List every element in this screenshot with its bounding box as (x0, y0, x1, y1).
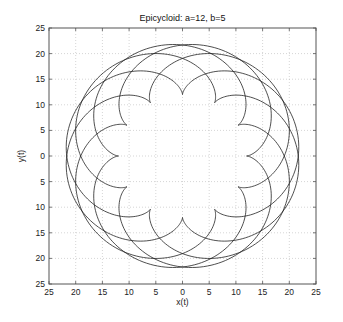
curve-epicycloid (66, 45, 299, 268)
axis-ticks (49, 28, 316, 284)
y-tick-label: 5 (40, 177, 45, 187)
y-tick-label: 20 (36, 49, 46, 59)
x-tick-label: 25 (44, 287, 54, 297)
y-tick-label: 20 (36, 253, 46, 263)
x-tick-label: 15 (258, 287, 268, 297)
grid-lines (49, 28, 316, 284)
y-tick-label: 10 (36, 202, 46, 212)
x-tick-label: 5 (207, 287, 212, 297)
y-tick-label: 25 (36, 279, 46, 289)
x-tick-label: 10 (231, 287, 241, 297)
chart-figure: Epicycloid: a=12, b=5 252015105051015202… (0, 0, 343, 322)
epicycloid-curve (66, 45, 299, 268)
y-tick-labels: 2520151050510152025 (36, 23, 46, 289)
x-axis-label: x(t) (176, 297, 188, 307)
y-axis-label: y(t) (16, 150, 26, 162)
x-tick-label: 5 (153, 287, 158, 297)
y-tick-label: 0 (40, 151, 45, 161)
y-tick-label: 10 (36, 100, 46, 110)
y-tick-label: 5 (40, 125, 45, 135)
x-tick-label: 25 (311, 287, 321, 297)
x-tick-label: 20 (285, 287, 295, 297)
x-tick-label: 15 (98, 287, 108, 297)
y-tick-label: 25 (36, 23, 46, 33)
chart-title: Epicycloid: a=12, b=5 (139, 13, 225, 23)
axes-box (49, 28, 316, 284)
x-tick-label: 10 (124, 287, 134, 297)
y-tick-label: 15 (36, 228, 46, 238)
y-tick-label: 15 (36, 74, 46, 84)
x-tick-label: 20 (71, 287, 81, 297)
x-tick-label: 0 (180, 287, 185, 297)
x-tick-labels: 2520151050510152025 (44, 287, 321, 297)
